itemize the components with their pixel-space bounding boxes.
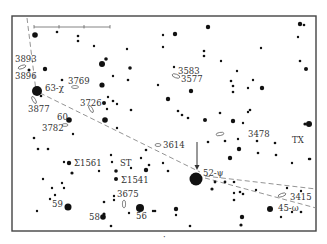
star-icon bbox=[42, 178, 44, 180]
star-icon bbox=[181, 114, 184, 117]
star-icon bbox=[102, 101, 106, 105]
star-icon bbox=[116, 127, 118, 129]
star-icon bbox=[112, 75, 114, 77]
label-star59: 59 bbox=[52, 199, 63, 209]
star-icon bbox=[228, 156, 232, 160]
star-icon bbox=[297, 36, 299, 38]
star-icon bbox=[98, 170, 100, 172]
star-icon bbox=[162, 162, 164, 164]
star-icon bbox=[286, 187, 288, 189]
star-icon bbox=[63, 161, 65, 163]
star-icon bbox=[298, 22, 302, 26]
star-icon bbox=[37, 148, 40, 151]
star-icon bbox=[206, 25, 210, 29]
star-icon bbox=[127, 79, 130, 82]
star-icon bbox=[93, 45, 95, 47]
star-icon bbox=[303, 24, 306, 27]
star-icon bbox=[309, 158, 312, 161]
star-icon bbox=[306, 121, 312, 127]
star-icon bbox=[111, 161, 113, 163]
star-icon bbox=[203, 50, 206, 53]
star-icon bbox=[210, 187, 213, 190]
star-icon bbox=[102, 117, 108, 123]
star-icon bbox=[260, 86, 264, 90]
star-icon bbox=[99, 82, 104, 87]
star-icon bbox=[148, 164, 151, 167]
star-icon bbox=[61, 79, 64, 82]
star-icon bbox=[214, 181, 217, 184]
star-icon bbox=[299, 60, 302, 63]
small-mark: · bbox=[163, 232, 166, 242]
star-icon bbox=[224, 181, 227, 184]
star-icon bbox=[145, 149, 148, 152]
star-icon bbox=[40, 95, 43, 98]
star-icon bbox=[247, 111, 249, 113]
star-icon bbox=[304, 67, 308, 71]
star-icon bbox=[162, 34, 164, 36]
star-icon bbox=[252, 79, 254, 81]
star-icon bbox=[32, 32, 38, 38]
star-icon bbox=[110, 225, 113, 228]
star-icon bbox=[219, 112, 222, 115]
star-icon bbox=[257, 152, 260, 155]
star-icon bbox=[77, 40, 80, 43]
label-txumae: TX bbox=[292, 135, 305, 145]
star-icon bbox=[128, 212, 130, 214]
star-icon bbox=[130, 109, 133, 112]
star-icon bbox=[174, 207, 178, 211]
star-icon bbox=[247, 87, 249, 89]
star-icon bbox=[166, 97, 170, 101]
star-icon bbox=[224, 140, 227, 143]
label-ngc3769: 3769 bbox=[68, 76, 90, 86]
star-icon bbox=[126, 48, 128, 50]
star-icon bbox=[249, 109, 252, 112]
star-icon bbox=[175, 214, 177, 216]
label-star60: 60 bbox=[57, 112, 68, 122]
star-icon bbox=[256, 140, 259, 143]
star-icon bbox=[51, 187, 53, 189]
label-star52: 52-ψ bbox=[203, 168, 224, 178]
star-icon bbox=[54, 194, 56, 196]
star-icon bbox=[255, 189, 257, 191]
star-icon bbox=[65, 204, 72, 211]
label-sigma1541: Σ1541 bbox=[121, 175, 149, 185]
star-icon bbox=[239, 223, 242, 226]
star-icon bbox=[107, 96, 109, 98]
label-st: ST bbox=[120, 158, 132, 168]
star-icon bbox=[113, 195, 115, 197]
star-icon bbox=[230, 80, 233, 83]
star-icon bbox=[36, 210, 38, 212]
star-icon bbox=[103, 201, 106, 204]
label-ngc3726: 3726 bbox=[80, 98, 102, 108]
star-icon bbox=[190, 173, 203, 186]
label-ngc3675: 3675 bbox=[117, 189, 139, 199]
star-icon bbox=[110, 154, 112, 156]
star-icon bbox=[303, 122, 306, 125]
star-icon bbox=[100, 214, 106, 220]
star-icon bbox=[237, 147, 241, 151]
star-icon bbox=[72, 133, 74, 135]
star-icon bbox=[77, 35, 80, 38]
star-icon bbox=[300, 211, 303, 214]
label-ngc3478: 3478 bbox=[248, 129, 270, 139]
star-icon bbox=[99, 61, 105, 67]
label-star63: 63-χ bbox=[45, 83, 64, 93]
star-icon bbox=[61, 182, 63, 184]
label-star45: 45-ω bbox=[278, 203, 299, 213]
star-icon bbox=[162, 46, 164, 48]
star-icon bbox=[113, 199, 115, 201]
star-icon bbox=[167, 170, 170, 173]
star-icon bbox=[173, 66, 175, 68]
star-icon bbox=[114, 177, 118, 181]
star-icon bbox=[70, 171, 73, 174]
star-icon bbox=[207, 141, 210, 144]
star-icon bbox=[106, 108, 108, 110]
star-icon bbox=[232, 85, 235, 88]
star-icon bbox=[220, 60, 222, 62]
label-star58: 58 bbox=[89, 212, 100, 222]
star-icon bbox=[157, 84, 159, 86]
star-icon bbox=[47, 148, 50, 151]
star-icon bbox=[116, 103, 118, 105]
label-star56: 56 bbox=[136, 211, 147, 221]
star-icon bbox=[239, 191, 242, 194]
